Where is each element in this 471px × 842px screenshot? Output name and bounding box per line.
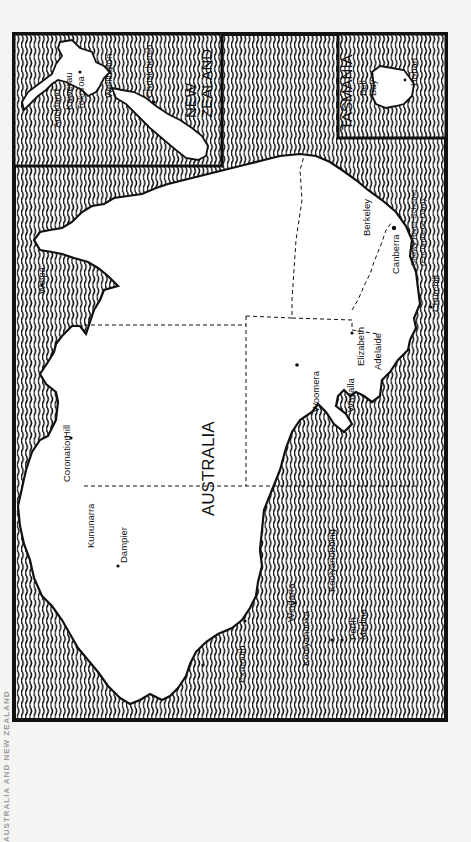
label-adelaide: Adelaide (372, 333, 383, 370)
tasmania-inset: TASMANIA Bell Bay Hobart (338, 34, 446, 138)
new-zealand-inset: Auckland Kawerau Tokoroa Wellington Chri… (14, 34, 222, 166)
label-elizabeth: Elizabeth (355, 327, 366, 366)
label-whyalla: Whyalla (345, 377, 356, 412)
label-medina: Medina (357, 608, 368, 640)
label-snowy-river: Snowy River Scheme (409, 189, 418, 266)
tasmania-title: TASMANIA (338, 54, 355, 130)
label-weipa: Weipa (36, 267, 47, 294)
label-wellington: Wellington (103, 54, 114, 98)
nz-title-line2: ZEALAND (198, 49, 215, 118)
label-hill: Hill (61, 425, 72, 438)
label-encumbene-dam: (Encumbene Dam) (418, 199, 427, 266)
label-christchurch: Christchurch (143, 45, 154, 98)
label-canberra: Canberra (390, 234, 401, 274)
label-dampier: Dampier (118, 527, 129, 563)
label-auckland: Auckland (51, 89, 62, 128)
label-kununurra: Kununarra (85, 503, 96, 548)
label-koolyanooka: Koolyanooka (300, 610, 311, 666)
nz-title-line1: NEW (182, 82, 199, 118)
label-kawerau: Kawerau (63, 73, 74, 111)
label-hobart: Hobart (408, 57, 419, 86)
label-koolyanobbing: Koolyanobbing (326, 529, 337, 592)
running-header: AUSTRALIA AND NEW ZEALAND (2, 472, 12, 842)
label-churchill: Churchill (430, 275, 441, 312)
label-tokoroa: Tokoroa (75, 75, 86, 110)
label-windarra: Windarra (285, 583, 296, 622)
label-exmouth: Exmouth (236, 646, 247, 684)
label-woomera: Woomera (310, 370, 321, 412)
label-bay: Bay (367, 79, 378, 96)
label-berkeley: Berkeley (361, 199, 372, 236)
australia-title: AUSTRALIA (199, 421, 218, 516)
label-coronation: Coronation (61, 436, 72, 482)
